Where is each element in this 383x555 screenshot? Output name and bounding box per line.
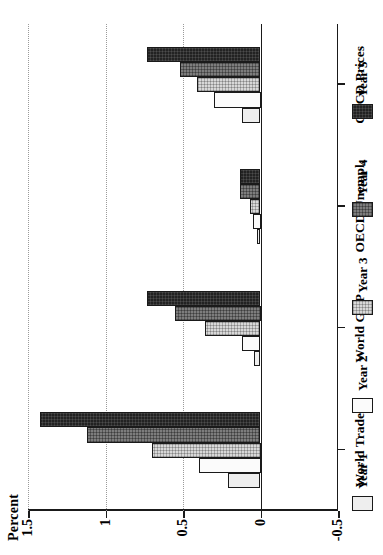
chart-legend: Year 1Year 2Year 3Year 4Year 5 bbox=[352, 21, 380, 511]
bar-year-3 bbox=[197, 77, 261, 92]
value-axis-tick-label: 1.5 bbox=[20, 519, 36, 553]
value-axis-tick-label: -0.5 bbox=[330, 519, 346, 553]
bar-year-4 bbox=[240, 184, 260, 199]
bar-year-2 bbox=[199, 458, 261, 473]
plot-area: 1.510.50-0.5World TradeWorld GDPOECD Une… bbox=[28, 24, 338, 511]
category-group: OECD Prices bbox=[28, 24, 338, 146]
legend-item[interactable]: Year 5 bbox=[352, 61, 373, 119]
bar-year-5 bbox=[240, 169, 260, 184]
value-axis-tick bbox=[28, 511, 30, 518]
value-axis-tick bbox=[338, 511, 340, 518]
bar-year-1 bbox=[228, 473, 261, 488]
legend-item[interactable]: Year 3 bbox=[352, 257, 373, 315]
bar-year-1 bbox=[257, 229, 260, 244]
bar-chart-figure: Percent 1.510.50-0.5World TradeWorld GDP… bbox=[0, 0, 383, 555]
category-group: World Trade bbox=[28, 389, 338, 511]
legend-item-label: Year 5 bbox=[355, 61, 371, 97]
value-axis-tick bbox=[106, 511, 108, 518]
bar-year-1 bbox=[254, 351, 260, 366]
value-axis-tick-label: 1 bbox=[98, 519, 114, 553]
chart-rotator: Percent 1.510.50-0.5World TradeWorld GDP… bbox=[0, 0, 383, 555]
legend-item[interactable]: Year 4 bbox=[352, 159, 373, 217]
bar-year-5 bbox=[147, 47, 260, 62]
bar-year-4 bbox=[175, 306, 260, 321]
bar-year-4 bbox=[87, 427, 261, 442]
legend-swatch-year-4 bbox=[352, 202, 373, 217]
bar-year-5 bbox=[40, 412, 260, 427]
legend-swatch-year-2 bbox=[352, 398, 373, 413]
category-group: OECD Unempl. bbox=[28, 146, 338, 268]
value-axis-tick-label: 0.5 bbox=[175, 519, 191, 553]
legend-item-label: Year 3 bbox=[355, 257, 371, 293]
category-axis-tick bbox=[338, 205, 345, 207]
value-axis-tick bbox=[261, 511, 263, 518]
legend-item[interactable]: Year 2 bbox=[352, 355, 373, 413]
category-axis-tick bbox=[338, 327, 345, 329]
bar-year-2 bbox=[253, 214, 261, 229]
value-axis-tick bbox=[183, 511, 185, 518]
bar-year-2 bbox=[214, 92, 261, 107]
bar-year-4 bbox=[180, 62, 261, 77]
legend-item[interactable]: Year 1 bbox=[352, 453, 373, 511]
bar-year-5 bbox=[147, 291, 260, 306]
legend-item-label: Year 2 bbox=[355, 355, 371, 391]
legend-swatch-year-3 bbox=[352, 300, 373, 315]
legend-item-label: Year 1 bbox=[355, 453, 371, 489]
category-group: World GDP bbox=[28, 268, 338, 390]
category-axis-tick bbox=[338, 83, 345, 85]
legend-swatch-year-5 bbox=[352, 104, 373, 119]
category-axis-tick bbox=[338, 449, 345, 451]
legend-item-label: Year 4 bbox=[355, 159, 371, 195]
bar-year-3 bbox=[152, 443, 261, 458]
bar-year-1 bbox=[242, 108, 261, 123]
bar-year-3 bbox=[250, 199, 261, 214]
legend-swatch-year-1 bbox=[352, 496, 373, 511]
value-axis-tick-label: 0 bbox=[253, 519, 269, 553]
bar-year-2 bbox=[242, 336, 261, 351]
bar-year-3 bbox=[205, 321, 261, 336]
